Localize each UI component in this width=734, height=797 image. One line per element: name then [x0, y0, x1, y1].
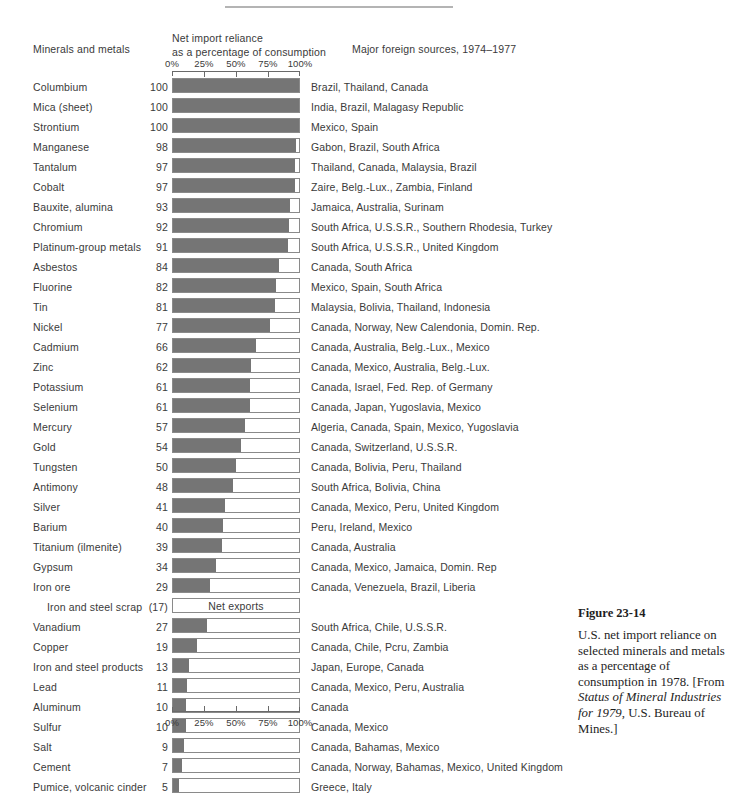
bar-fill [173, 479, 233, 492]
mineral-label: Gold [33, 441, 56, 453]
x-axis-tick-label: 75% [258, 717, 277, 728]
mineral-label: Barium [33, 521, 67, 533]
bar-row: Cement7Canada, Norway, Bahamas, Mexico, … [0, 757, 580, 777]
mineral-label: Copper [33, 641, 68, 653]
bar-fill [173, 179, 295, 192]
bar-row: Selenium61Canada, Japan, Yugoslavia, Mex… [0, 397, 580, 417]
x-axis-tick-labels-bottom: 0%25%50%75%100% [168, 717, 318, 729]
bar-track [172, 778, 300, 793]
mineral-label: Zinc [33, 361, 53, 373]
bar-track [172, 438, 300, 453]
bar-fill [173, 439, 241, 452]
bar-track [172, 158, 300, 173]
mineral-label: Cement [33, 761, 71, 773]
bar-track [172, 298, 300, 313]
reliance-value: 61 [106, 401, 168, 413]
bar-track [172, 218, 300, 233]
bar-track [172, 338, 300, 353]
reliance-header-line2: as a percentage of consumption [172, 46, 326, 60]
bar-track [172, 518, 300, 533]
bar-row: Columbium100Brazil, Thailand, Canada [0, 77, 580, 97]
reliance-value: 39 [106, 541, 168, 553]
reliance-value: 77 [106, 321, 168, 333]
bar-fill [173, 359, 251, 372]
bar-row: Salt9Canada, Bahamas, Mexico [0, 737, 580, 757]
bar-fill [173, 519, 223, 532]
bar-fill [173, 79, 299, 92]
bar-fill [173, 399, 250, 412]
reliance-header-line1: Net import reliance [172, 32, 326, 46]
foreign-sources: Canada, Australia [311, 541, 396, 553]
bar-fill [173, 319, 270, 332]
bar-row: Antimony48South Africa, Bolivia, China [0, 477, 580, 497]
foreign-sources: Canada, Switzerland, U.S.S.R. [311, 441, 457, 453]
mineral-label: Aluminum [33, 701, 81, 713]
bar-fill [173, 139, 296, 152]
reliance-value: 57 [106, 421, 168, 433]
bar-track [172, 538, 300, 553]
mineral-label: Silver [33, 501, 60, 513]
bar-track [172, 558, 300, 573]
foreign-sources: Algeria, Canada, Spain, Mexico, Yugoslav… [311, 421, 519, 433]
bar-row: Mica (sheet)100India, Brazil, Malagasy R… [0, 97, 580, 117]
bar-row: Lead11Canada, Mexico, Peru, Australia [0, 677, 580, 697]
mineral-label: Antimony [33, 481, 78, 493]
bar-fill [173, 779, 179, 792]
bar-track [172, 278, 300, 293]
x-axis-tick [299, 707, 300, 712]
bar-fill [173, 419, 245, 432]
foreign-sources: Greece, Italy [311, 781, 372, 793]
bar-track [172, 378, 300, 393]
foreign-sources: Thailand, Canada, Malaysia, Brazil [311, 161, 477, 173]
bar-track [172, 458, 300, 473]
bar-track [172, 578, 300, 593]
x-axis-tick-label: 75% [258, 58, 277, 69]
foreign-sources: Canada, Mexico, Peru, United Kingdom [311, 501, 499, 513]
bar-track [172, 398, 300, 413]
bar-row: Strontium100Mexico, Spain [0, 117, 580, 137]
reliance-value: 100 [106, 81, 168, 93]
bar-fill [173, 339, 256, 352]
bar-row: Mercury57Algeria, Canada, Spain, Mexico,… [0, 417, 580, 437]
bar-fill [173, 199, 290, 212]
foreign-sources: South Africa, U.S.S.R., United Kingdom [311, 241, 499, 253]
bar-fill [173, 659, 189, 672]
bar-fill [173, 679, 187, 692]
caption-part-1: U.S. net import reliance on selected min… [578, 628, 725, 689]
foreign-sources: Peru, Ireland, Mexico [311, 521, 412, 533]
foreign-sources: Gabon, Brazil, South Africa [311, 141, 440, 153]
bar-row: Cobalt97Zaire, Belg.-Lux., Zambia, Finla… [0, 177, 580, 197]
mineral-label: Lead [33, 681, 57, 693]
bar-fill [173, 279, 276, 292]
reliance-value: 62 [106, 361, 168, 373]
bar-track [172, 78, 300, 93]
bar-row: Silver41Canada, Mexico, Peru, United Kin… [0, 497, 580, 517]
x-axis-tick [299, 71, 300, 76]
bar-fill [173, 559, 216, 572]
bar-row: Asbestos84Canada, South Africa [0, 257, 580, 277]
foreign-sources: Zaire, Belg.-Lux., Zambia, Finland [311, 181, 473, 193]
reliance-value: 50 [106, 461, 168, 473]
reliance-value: 34 [106, 561, 168, 573]
reliance-value: 27 [106, 621, 168, 633]
bar-track [172, 498, 300, 513]
foreign-sources: Canada, Norway, Bahamas, Mexico, United … [311, 761, 563, 773]
bar-row: Nickel77Canada, Norway, New Calendonia, … [0, 317, 580, 337]
bar-row: Chromium92South Africa, U.S.S.R., Southe… [0, 217, 580, 237]
bar-track [172, 738, 300, 753]
x-axis-bottom [172, 704, 300, 712]
bar-fill [173, 619, 207, 632]
reliance-value: 98 [106, 141, 168, 153]
x-axis-tick-labels-top: 0%25%50%75%100% [168, 58, 318, 70]
bar-row: Iron and steel scrap(17)Net exports [0, 597, 580, 617]
x-axis-tick [268, 706, 269, 711]
mineral-label: Bauxite, alumina [33, 201, 113, 213]
bar-row: Tungsten50Canada, Bolivia, Peru, Thailan… [0, 457, 580, 477]
foreign-sources: Mexico, Spain [311, 121, 378, 133]
reliance-value: 7 [106, 761, 168, 773]
bar-row: Bauxite, alumina93Jamaica, Australia, Su… [0, 197, 580, 217]
reliance-value: 19 [106, 641, 168, 653]
foreign-sources: South Africa, Chile, U.S.S.R. [311, 621, 447, 633]
figure-caption: Figure 23-14 U.S. net import reliance on… [578, 606, 728, 737]
mineral-label: Fluorine [33, 281, 72, 293]
